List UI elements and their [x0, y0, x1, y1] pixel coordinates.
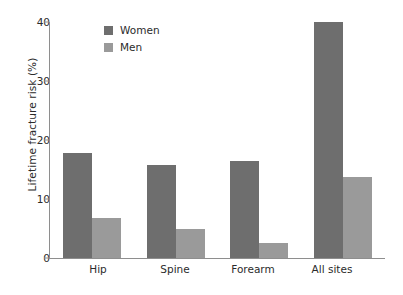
bar-spine-men [176, 229, 205, 258]
legend-label-women: Women [120, 25, 160, 36]
legend-item-women: Women [104, 22, 160, 39]
x-tick-label-forearm: Forearm [231, 264, 274, 276]
legend-swatch-women-icon [104, 26, 113, 35]
bar-forearm-men [259, 243, 288, 258]
bar-spine-women [147, 165, 176, 258]
x-tick-label-spine: Spine [160, 264, 189, 276]
x-tick-label-all-sites: All sites [312, 264, 353, 276]
bar-all-sites-men [343, 177, 372, 258]
bar-hip-women [63, 153, 92, 258]
plot-area [50, 22, 385, 258]
x-tick-label-hip: Hip [89, 264, 106, 276]
legend-label-men: Men [120, 42, 142, 53]
legend-item-men: Men [104, 39, 160, 56]
bar-forearm-women [230, 161, 259, 258]
y-axis-ticks: 40 30 20 10 0 [14, 0, 50, 295]
x-axis-line [49, 258, 385, 259]
legend: Women Men [104, 22, 160, 56]
bar-hip-men [92, 218, 121, 258]
bar-all-sites-women [314, 22, 343, 258]
legend-swatch-men-icon [104, 43, 113, 52]
bar-chart: Lifetime fracture risk (%) 40 30 20 10 0… [0, 0, 403, 295]
